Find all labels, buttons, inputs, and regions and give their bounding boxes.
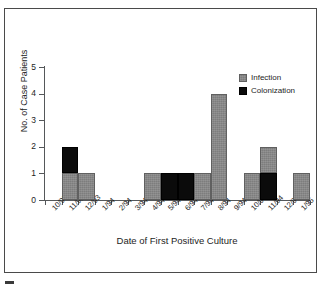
y-tick-label: 4 [16, 89, 36, 98]
bar-segment-colonization [161, 173, 178, 200]
bar-segment-infection [78, 173, 95, 200]
bar-segment-colonization [178, 173, 195, 200]
bar-stack [161, 173, 178, 200]
bar-segment-infection [194, 173, 211, 200]
legend-label-colonization: Colonization [251, 87, 295, 95]
y-tick-label: 1 [16, 169, 36, 178]
bar-segment-infection [260, 147, 277, 174]
bar-stack [144, 173, 161, 200]
bar-stack [211, 94, 228, 200]
scan-artifact [5, 281, 14, 284]
bar-segment-infection [62, 173, 79, 200]
y-tick-label: 0 [16, 196, 36, 205]
bar-stack [78, 173, 95, 200]
y-tick-label: 2 [16, 142, 36, 151]
x-axis-title: Date of First Positive Culture [44, 235, 310, 246]
y-tick-label: 5 [16, 63, 36, 72]
legend-swatch-infection [239, 74, 247, 82]
y-tick [39, 120, 44, 121]
y-tick [39, 200, 44, 201]
bar-stack [178, 173, 195, 200]
bar-stack [194, 173, 211, 200]
bar-segment-colonization [62, 147, 79, 174]
legend-item-colonization: Colonization [239, 85, 295, 96]
chart-legend: Infection Colonization [239, 72, 295, 98]
bar-stack [244, 173, 261, 200]
figure: No. of Case Patients Date of First Posit… [0, 0, 323, 289]
bar-stack [293, 173, 310, 200]
y-tick [39, 67, 44, 68]
y-tick-label: 3 [16, 116, 36, 125]
bar-segment-infection [144, 173, 161, 200]
bar-stack [62, 147, 79, 200]
y-tick [39, 147, 44, 148]
legend-label-infection: Infection [251, 74, 281, 82]
legend-swatch-colonization [239, 87, 247, 95]
bar-segment-colonization [260, 173, 277, 200]
y-tick [39, 94, 44, 95]
bar-stack [260, 147, 277, 200]
bar-segment-infection [293, 173, 310, 200]
legend-item-infection: Infection [239, 72, 295, 83]
y-tick [39, 173, 44, 174]
bar-segment-infection [211, 94, 228, 200]
x-tick [45, 201, 46, 205]
bar-segment-infection [244, 173, 261, 200]
